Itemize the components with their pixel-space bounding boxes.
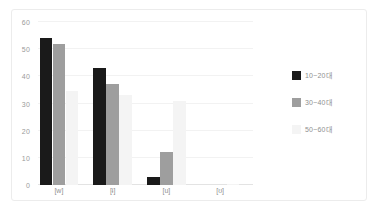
bar [106, 84, 119, 185]
bar-chart-figure: 0102030405060 [w][ɨ][u][ʊ] 10~20대30~40대5… [0, 0, 382, 215]
bar [173, 101, 186, 185]
y-tick-label-20: 20 [22, 127, 30, 134]
chart-legend: 10~20대30~40대50~60대 [292, 68, 364, 149]
bar-series-container [38, 22, 253, 185]
y-axis-tick-labels: 0102030405060 [0, 22, 34, 185]
bar-group [93, 22, 132, 185]
legend-item[interactable]: 50~60대 [292, 122, 364, 149]
x-tick-label: [ʊ] [216, 187, 224, 194]
bar [227, 184, 240, 185]
y-tick-label-50: 50 [22, 46, 30, 53]
y-tick-label-0: 0 [26, 182, 30, 189]
legend-label: 10~20대 [305, 70, 332, 80]
legend-swatch-icon [292, 98, 301, 107]
legend-swatch-icon [292, 71, 301, 80]
x-tick-label: [ɨ] [110, 187, 115, 194]
bar-group [40, 22, 79, 185]
bar [66, 91, 79, 185]
bar [93, 68, 106, 185]
plot-area [38, 22, 253, 185]
bar-group [147, 22, 186, 185]
bar [40, 38, 53, 185]
legend-label: 50~60대 [305, 124, 332, 134]
y-tick-label-30: 30 [22, 100, 30, 107]
legend-label: 30~40대 [305, 97, 332, 107]
y-tick-label-10: 10 [22, 154, 30, 161]
bar [147, 177, 160, 185]
y-tick-label-40: 40 [22, 73, 30, 80]
bar [53, 44, 66, 185]
x-axis-tick-labels: [w][ɨ][u][ʊ] [38, 187, 253, 201]
x-tick-label: [u] [162, 187, 170, 194]
legend-item[interactable]: 10~20대 [292, 68, 364, 95]
y-tick-label-60: 60 [22, 19, 30, 26]
bar [119, 95, 132, 185]
bar [160, 152, 173, 185]
legend-item[interactable]: 30~40대 [292, 95, 364, 122]
bar-group [201, 22, 240, 185]
legend-swatch-icon [292, 125, 301, 134]
x-tick-label: [w] [54, 187, 63, 194]
